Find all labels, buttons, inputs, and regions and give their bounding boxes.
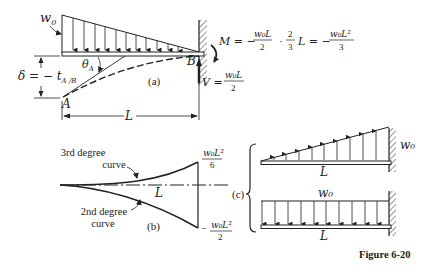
svg-text:V =: V = xyxy=(202,76,223,89)
load-label-c-upper: w₀ xyxy=(400,138,415,152)
third-degree-label-2: curve xyxy=(102,159,126,170)
part-a-cantilever: w0 θA δ = − tA /B A B (a) L xyxy=(18,10,216,123)
fixed-wall-c-lower xyxy=(389,191,396,236)
svg-text:3: 3 xyxy=(288,42,293,52)
beam-a xyxy=(62,52,204,56)
load-arrows-c-lower xyxy=(262,201,377,224)
bottom-value-num: w₀L² xyxy=(211,220,232,230)
third-degree-label-1: 3rd degree xyxy=(61,147,106,158)
svg-text:w₀L: w₀L xyxy=(225,70,242,80)
part-a-label: (a) xyxy=(148,75,161,88)
delta-equation: δ = − tA /B xyxy=(18,69,76,85)
length-label-c-lower: L xyxy=(319,229,328,243)
top-value-den: 6 xyxy=(210,160,215,170)
shear-equation: V = w₀L 2 xyxy=(202,70,244,93)
svg-text:M = −: M = − xyxy=(218,35,256,48)
load-label-c-lower: w₀ xyxy=(318,186,333,200)
point-b-label: B xyxy=(186,54,196,68)
bottom-value-sign: − xyxy=(201,223,207,234)
length-label-a: L xyxy=(124,109,133,123)
length-label-b: L xyxy=(154,186,163,200)
svg-text:w₀L: w₀L xyxy=(254,29,271,39)
top-value-num: w₀L² xyxy=(203,148,224,158)
length-label-c-upper: L xyxy=(319,165,328,179)
moment-reaction-arrow xyxy=(211,45,216,62)
bottom-value-den: 2 xyxy=(218,232,223,242)
moment-equation: M = − w₀L 2 · 2 3 L = − w₀L² 3 xyxy=(218,29,354,52)
triangular-load-outline xyxy=(62,15,199,52)
svg-text:2: 2 xyxy=(231,83,236,93)
part-c-label: (c) xyxy=(232,188,245,201)
svg-text:L = −: L = − xyxy=(297,35,331,48)
svg-text:2: 2 xyxy=(260,42,265,52)
second-degree-label-1: 2nd degree xyxy=(81,206,128,217)
fixed-wall-c-upper xyxy=(389,128,396,172)
point-a-label: A xyxy=(61,97,71,111)
svg-text:2: 2 xyxy=(288,29,293,39)
load-arrows-a xyxy=(73,18,178,51)
svg-text:w₀L²: w₀L² xyxy=(330,29,351,39)
figure-caption: Figure 6-20 xyxy=(359,249,410,260)
part-b-moment-diagram: 3rd degree curve 2nd degree curve L (b) … xyxy=(60,147,232,242)
part-c-equivalent-loads: (c) w₀ L xyxy=(232,127,415,243)
part-b-label: (b) xyxy=(147,220,160,233)
svg-text:·: · xyxy=(279,35,283,47)
brace xyxy=(246,144,256,232)
beam-c-lower xyxy=(261,225,391,229)
svg-text:3: 3 xyxy=(339,42,344,52)
load-label-a: w0 xyxy=(40,10,56,27)
figure-6-20-diagram: w0 θA δ = − tA /B A B (a) L xyxy=(0,0,433,268)
second-degree-label-2: curve xyxy=(91,218,115,229)
theta-a-label: θA xyxy=(82,58,94,73)
third-degree-curve xyxy=(60,162,198,185)
beam-c-upper xyxy=(261,161,391,165)
load-arrows-c-upper xyxy=(274,131,376,160)
